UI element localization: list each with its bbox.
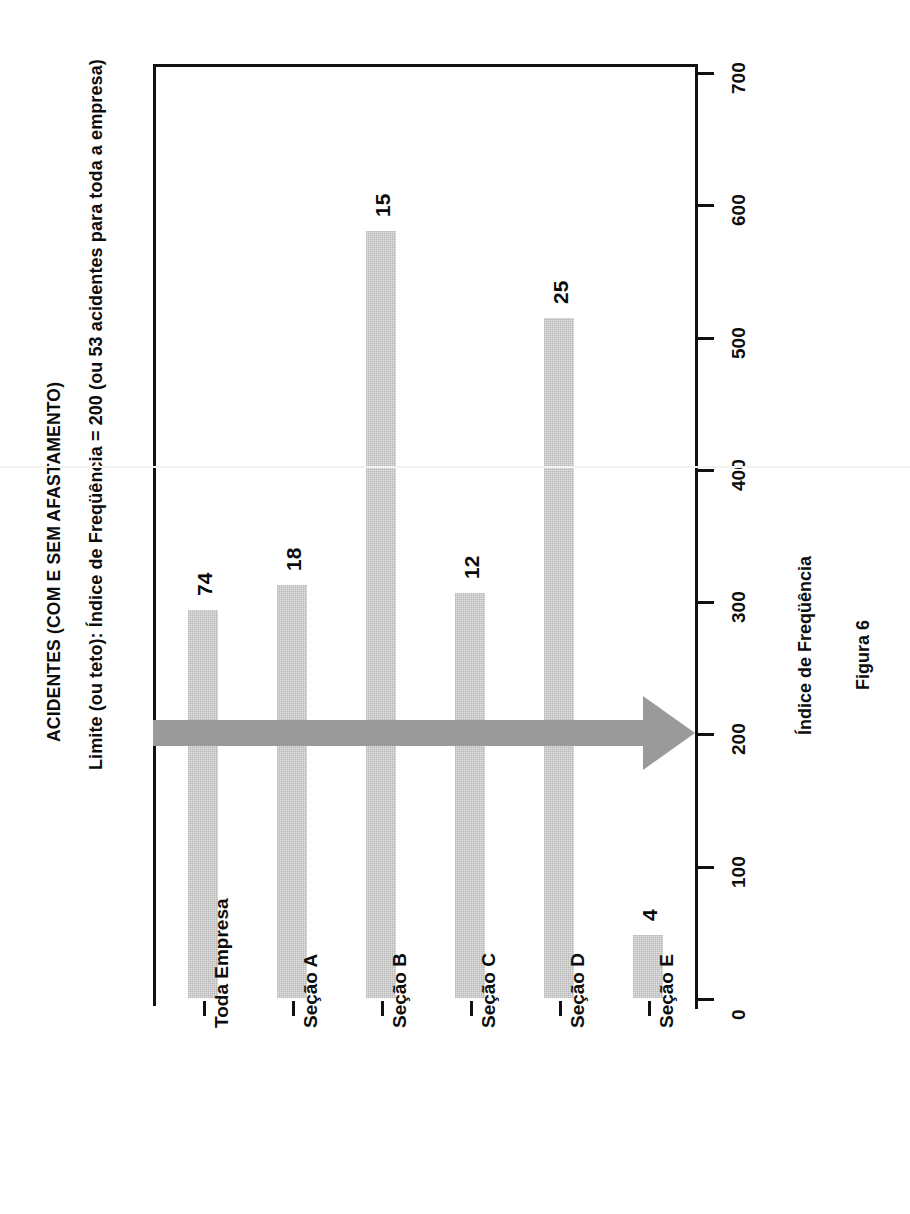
- value-tick: [698, 733, 714, 736]
- limit-arrow-icon: [153, 688, 698, 778]
- category-tick-label: Seção D: [567, 953, 589, 1028]
- value-tick: [698, 204, 714, 207]
- bar: [366, 231, 396, 998]
- bar-value-label: 15: [371, 193, 395, 216]
- category-tick-label: Seção C: [478, 953, 500, 1028]
- value-tick: [698, 72, 714, 75]
- bar-value-label: 18: [282, 548, 306, 571]
- category-tick-label: Seção B: [389, 953, 411, 1028]
- value-tick-label: 200: [728, 724, 750, 756]
- category-tick: [292, 1001, 295, 1016]
- bar-value-label: 74: [193, 573, 217, 596]
- category-tick: [203, 1001, 206, 1016]
- category-tick: [381, 1001, 384, 1016]
- value-tick: [698, 998, 714, 1001]
- value-axis-title: Índice de Freqüência: [795, 556, 816, 735]
- bar: [277, 585, 307, 998]
- category-tick: [559, 1001, 562, 1016]
- figure-caption: Figura 6: [853, 620, 874, 690]
- category-tick-label: Toda Empresa: [211, 898, 233, 1028]
- bar-value-label: 25: [549, 281, 573, 304]
- category-tick: [648, 1001, 651, 1016]
- value-tick-label: 0: [728, 1009, 750, 1020]
- value-tick-label: 100: [728, 856, 750, 888]
- value-tick-label: 300: [728, 591, 750, 623]
- plot-top-border: [153, 64, 698, 67]
- plot-area: 74181512254 0100200300400500600700 Toda …: [153, 64, 698, 1006]
- bar-value-label: 12: [460, 556, 484, 579]
- bar-value-label: 4: [638, 909, 662, 921]
- value-tick-label: 700: [728, 62, 750, 94]
- value-tick: [698, 601, 714, 604]
- category-axis-line: [153, 64, 156, 1006]
- value-tick-label: 600: [728, 195, 750, 227]
- value-tick: [698, 337, 714, 340]
- category-tick: [470, 1001, 473, 1016]
- chart-subtitle: Limite (ou teto): Índice de Freqüência =…: [86, 59, 107, 770]
- bar: [544, 318, 574, 998]
- value-tick-label: 500: [728, 327, 750, 359]
- category-tick-label: Seção A: [300, 954, 322, 1028]
- bar: [455, 593, 485, 998]
- value-tick-label: 400: [728, 459, 750, 491]
- value-tick: [698, 866, 714, 869]
- value-tick: [698, 469, 714, 472]
- chart-title: ACIDENTES (COM E SEM AFASTAMENTO): [44, 382, 65, 742]
- category-tick-label: Seção E: [656, 954, 678, 1028]
